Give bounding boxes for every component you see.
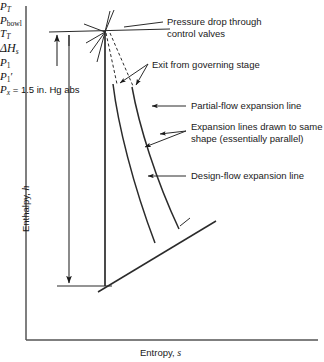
annotation-partial-flow: Partial-flow expansion line	[191, 100, 301, 112]
throttle-fan-lines	[84, 10, 114, 62]
figure-canvas: PT Pbowl TT ΔHs P1 P1′ Px = 1.5 in. Hg a…	[0, 0, 324, 362]
leader-px	[180, 218, 190, 226]
annotation-parallel-note: Expansion lines drawn to sameshape (esse…	[191, 121, 323, 144]
annotation-design-flow: Design-flow expansion line	[191, 170, 304, 182]
leader-pressure-drop	[124, 22, 163, 27]
inlet-enthalpy-level-line	[49, 29, 170, 32]
governing-stage-dashed-lines	[106, 33, 133, 86]
leader-parallel-note	[145, 131, 186, 147]
exhaust-pressure-line-px	[98, 221, 216, 292]
design-flow-expansion-line	[113, 84, 155, 243]
annotation-exit-governing-stage: Exit from governing stage	[152, 59, 260, 71]
partial-flow-expansion-line	[132, 87, 179, 229]
leader-exit-governing-stage	[120, 64, 148, 85]
y-axis-title: Enthalpy, h	[20, 185, 31, 232]
x-axis-title: Entropy, s	[140, 347, 181, 358]
annotation-pressure-drop: Pressure drop throughcontrol valves	[167, 16, 262, 39]
